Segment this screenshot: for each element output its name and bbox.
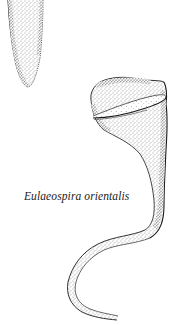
partial-lorica-top-left [8, 0, 43, 87]
illustration-plate: Eulaeospira orientalis [0, 0, 179, 325]
lorica-illustration [0, 0, 179, 325]
species-caption: Eulaeospira orientalis [24, 190, 129, 202]
